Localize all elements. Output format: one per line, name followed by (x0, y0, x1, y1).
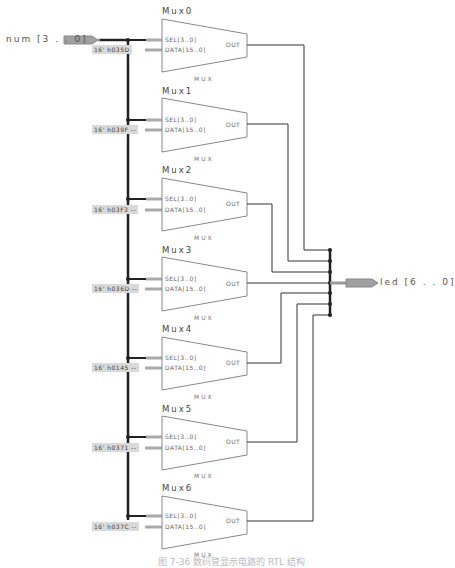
mux2-sel-pin: SEL[3..0] (165, 195, 197, 202)
mux1-out-pin: OUT (226, 121, 240, 128)
mux6-data-pin: DATA[15..0] (165, 523, 206, 530)
mux5-data-pin: DATA[15..0] (165, 444, 206, 451)
mux5-constant: 16' h0371 -- (92, 443, 139, 452)
mux2-data-pin: DATA[15..0] (165, 206, 206, 213)
output-port-shape (346, 279, 378, 287)
mux3-data-pin: DATA[15..0] (165, 285, 206, 292)
mux1-constant: 16' h039F -- (92, 125, 138, 134)
mux3-constant: 16' h036D -- (92, 284, 139, 293)
mux4-out-pin: OUT (226, 359, 240, 366)
mux4-constant: 16' h0145 -- (92, 363, 139, 372)
mux1-type: MUX (194, 155, 214, 162)
mux5-out-pin: OUT (226, 438, 240, 445)
mux2-type: MUX (194, 234, 214, 241)
mux2-constant: 16' h03F3 -- (92, 205, 138, 214)
mux0-type: MUX (194, 75, 214, 82)
mux1-sel-pin: SEL[3..0] (165, 116, 197, 123)
mux1-data-pin: DATA[15..0] (165, 126, 206, 133)
mux4-type: MUX (194, 393, 214, 400)
mux5-title: Mux5 (162, 404, 193, 414)
mux3-out-pin: OUT (226, 280, 240, 287)
mux3-title: Mux3 (162, 245, 193, 255)
mux0-data-pin: DATA[15..0] (165, 46, 206, 53)
mux0-sel-pin: SEL[3..0] (165, 36, 197, 43)
mux0-title: Mux0 (162, 6, 193, 16)
mux0-out-pin: OUT (226, 41, 240, 48)
mux4-title: Mux4 (162, 324, 193, 334)
figure-caption: 图 7-36 数码管显示电路的 RTL 结构 (158, 555, 305, 568)
mux2-title: Mux2 (162, 165, 193, 175)
mux6-title: Mux6 (162, 483, 193, 493)
mux1-title: Mux1 (162, 86, 193, 96)
mux5-sel-pin: SEL[3..0] (165, 433, 197, 440)
mux3-type: MUX (194, 314, 214, 321)
mux2-out-pin: OUT (226, 200, 240, 207)
mux6-out-pin: OUT (226, 517, 240, 524)
mux4-sel-pin: SEL[3..0] (165, 354, 197, 361)
mux6-constant: 16' h037C -- (92, 522, 139, 531)
mux0-constant: 16' h035D (92, 45, 132, 54)
output-port-led[interactable]: led [6 . . 0] (380, 277, 455, 287)
input-port-num[interactable]: num [3 . . 0] (6, 34, 88, 44)
mux3-sel-pin: SEL[3..0] (165, 275, 197, 282)
mux4-data-pin: DATA[15..0] (165, 364, 206, 371)
mux5-type: MUX (194, 472, 214, 479)
mux6-sel-pin: SEL[3..0] (165, 512, 197, 519)
